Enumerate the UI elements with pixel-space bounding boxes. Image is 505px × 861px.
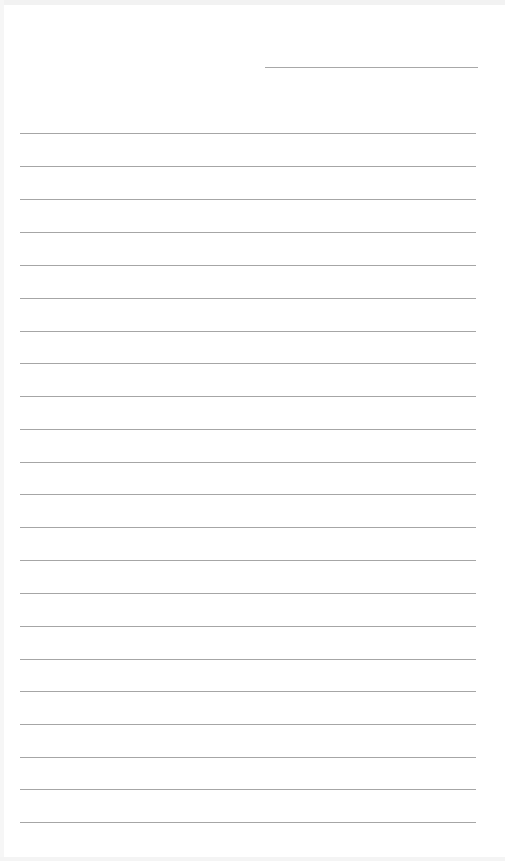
ruled-line [20, 822, 476, 823]
ruled-line [20, 331, 476, 332]
ruled-line [20, 659, 476, 660]
ruled-line [20, 166, 476, 167]
page-edge-left [0, 0, 4, 861]
ruled-line [20, 757, 476, 758]
ruled-line [20, 724, 476, 725]
ruled-line [20, 593, 476, 594]
ruled-line [20, 429, 476, 430]
ruled-line [20, 626, 476, 627]
ruled-line [20, 232, 476, 233]
ruled-line [20, 691, 476, 692]
ruled-line [20, 199, 476, 200]
ruled-line [20, 462, 476, 463]
ruled-line [20, 527, 476, 528]
ruled-line [20, 265, 476, 266]
ruled-line [20, 560, 476, 561]
page-edge-bottom [0, 857, 505, 861]
ruled-line [20, 298, 476, 299]
ruled-line [20, 363, 476, 364]
ruled-line [20, 494, 476, 495]
page-edge-top [0, 0, 505, 5]
ruled-line [20, 789, 476, 790]
header-name-line [265, 67, 478, 68]
ruled-line [20, 133, 476, 134]
ruled-line [20, 396, 476, 397]
